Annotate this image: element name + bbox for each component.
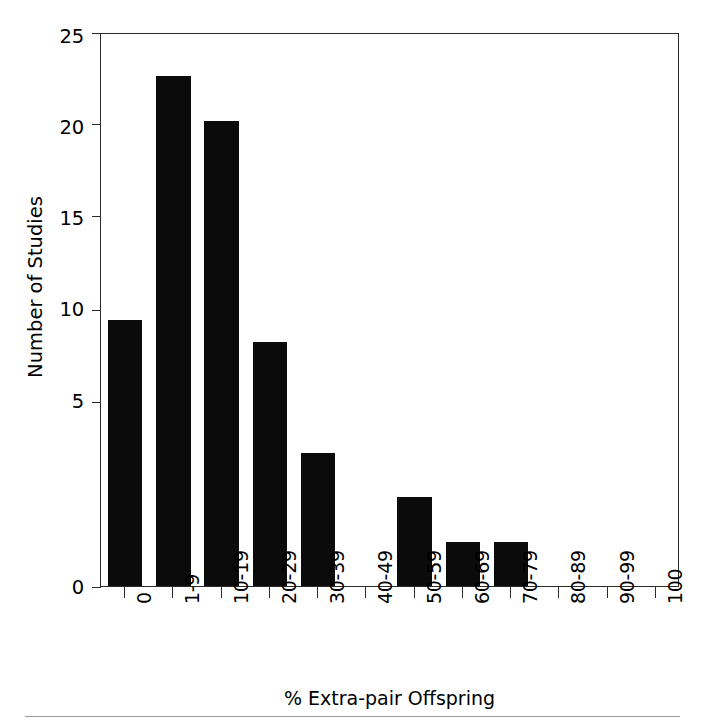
- y-tick-mark-0: [92, 587, 101, 588]
- bar-0: [108, 320, 143, 586]
- x-tick-label-60-69: 60-69: [451, 604, 473, 700]
- x-tick-label-100: 100: [644, 604, 666, 700]
- plot-area: [100, 33, 679, 587]
- x-tick-label-text: 0: [133, 592, 155, 604]
- x-tick-label-30-39: 30-39: [306, 604, 328, 700]
- x-tick-label-50-59: 50-59: [403, 604, 425, 700]
- x-tick-label-text: 60-69: [471, 550, 493, 604]
- x-tick-mark-90-99: [607, 587, 608, 598]
- y-tick-label-20: 20: [18, 118, 84, 138]
- x-tick-label-text: 10-19: [230, 550, 252, 604]
- x-tick-mark-60-69: [462, 587, 463, 598]
- x-tick-mark-50-59: [414, 587, 415, 598]
- x-tick-label-text: 20-29: [278, 550, 300, 604]
- x-tick-label-20-29: 20-29: [258, 604, 280, 700]
- x-tick-label-90-99: 90-99: [596, 604, 618, 700]
- x-tick-label-10-19: 10-19: [210, 604, 232, 700]
- bars-layer: [101, 34, 678, 586]
- x-tick-label-70-79: 70-79: [499, 604, 521, 700]
- x-tick-label-text: 30-39: [326, 550, 348, 604]
- y-tick-label-0: 0: [18, 578, 84, 598]
- bar-10-19: [204, 121, 239, 586]
- x-tick-label-text: 80-89: [567, 550, 589, 604]
- x-tick-label-text: 1-9: [181, 574, 203, 604]
- x-tick-label-text: 50-59: [423, 550, 445, 604]
- x-tick-mark-10-19: [221, 587, 222, 598]
- x-tick-label-text: 90-99: [616, 550, 638, 604]
- x-tick-mark-70-79: [510, 587, 511, 598]
- x-tick-label-text: 70-79: [519, 550, 541, 604]
- x-tick-label-text: 100: [664, 569, 686, 604]
- y-tick-label-25: 25: [18, 27, 84, 47]
- x-tick-label-0: 0: [113, 604, 135, 700]
- x-tick-mark-100: [655, 587, 656, 598]
- figure-bar-chart: 25 20 15 10 5 0 Number of Studies 01-910…: [0, 0, 705, 726]
- x-tick-mark-80-89: [558, 587, 559, 598]
- x-tick-mark-1-9: [172, 587, 173, 598]
- x-tick-label-80-89: 80-89: [547, 604, 569, 700]
- x-tick-mark-0: [124, 587, 125, 598]
- x-tick-mark-20-29: [269, 587, 270, 598]
- x-tick-mark-40-49: [365, 587, 366, 598]
- x-axis-title: % Extra-pair Offspring: [100, 688, 679, 708]
- x-tick-label-text: 40-49: [374, 550, 396, 604]
- x-tick-label-40-49: 40-49: [354, 604, 376, 700]
- bar-1-9: [156, 76, 191, 586]
- y-axis-title: Number of Studies: [26, 157, 46, 417]
- x-tick-mark-30-39: [317, 587, 318, 598]
- x-tick-label-1-9: 1-9: [161, 604, 183, 700]
- bottom-divider-rule: [25, 716, 680, 717]
